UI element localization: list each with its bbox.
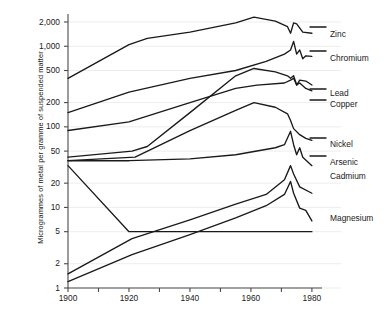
series-label-copper: Copper: [330, 100, 357, 108]
series-label-lead: Lead: [330, 89, 349, 97]
series-label-nickel: Nickel: [330, 140, 353, 148]
series-line-arsenic: [68, 131, 312, 165]
chart-container: Microgrammes of metal per gramme of susp…: [0, 0, 388, 320]
series-line-nickel: [68, 103, 312, 161]
series-label-arsenic: Arsenic: [330, 158, 358, 166]
series-line-copper: [68, 78, 312, 130]
series-line-zinc: [68, 17, 312, 78]
series-label-cadmium: Cadmium: [330, 172, 366, 180]
series-label-magnesium: Magnesium: [330, 214, 373, 222]
series-line-lead: [68, 68, 312, 157]
series-label-zinc: Zinc: [330, 30, 346, 38]
series-label-chromium: Chromium: [330, 54, 369, 62]
series-line-magnesium-upper: [68, 166, 312, 274]
series-line-cadmium: [68, 166, 312, 232]
